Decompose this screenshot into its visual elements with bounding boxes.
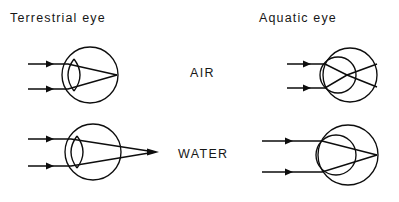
lens-anterior-arc bbox=[71, 136, 77, 168]
ray-lower bbox=[28, 75, 117, 89]
ray-lower-arrowhead bbox=[285, 169, 293, 176]
panel-terrestrial-in-water bbox=[28, 124, 159, 180]
eyeball-outline bbox=[323, 48, 377, 102]
ray-lower-arrowhead bbox=[303, 85, 311, 92]
eye-optics-figure: Terrestrial eye Aquatic eye AIR WATER bbox=[0, 0, 399, 202]
ray-upper-arrowhead bbox=[46, 136, 54, 143]
ray-lower-arrowhead bbox=[46, 163, 54, 170]
ray-upper-arrowhead bbox=[46, 61, 54, 68]
panel-aquatic-in-water bbox=[262, 125, 378, 185]
ray-upper-arrowhead bbox=[303, 61, 311, 68]
eyeball-outline bbox=[318, 125, 378, 185]
panel-aquatic-in-air bbox=[287, 48, 377, 102]
eyeball-outline bbox=[65, 124, 121, 180]
panel-terrestrial-in-air bbox=[28, 47, 118, 103]
ray-upper-arrowhead bbox=[285, 138, 293, 145]
eyeball-outline bbox=[62, 47, 118, 103]
ray-lower-arrowhead bbox=[46, 86, 54, 93]
diagram-layer bbox=[0, 0, 399, 202]
focal-point-arrowhead bbox=[147, 148, 159, 155]
ray-upper bbox=[28, 64, 117, 75]
